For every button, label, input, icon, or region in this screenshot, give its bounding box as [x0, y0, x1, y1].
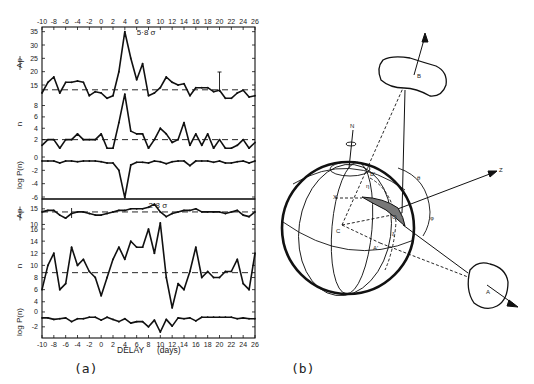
data-point: [242, 214, 244, 216]
data-point: [88, 213, 90, 215]
x-tick-label: 16: [192, 341, 200, 348]
data-point: [130, 164, 132, 166]
data-point: [177, 211, 179, 213]
data-point: [65, 160, 67, 162]
data-point: [159, 211, 161, 213]
data-point: [213, 277, 215, 279]
data-point: [100, 319, 102, 321]
data-point: [142, 161, 144, 163]
data-point: [183, 209, 185, 211]
data-point: [201, 277, 203, 279]
sphere-meridian: [326, 161, 377, 296]
label-x: X: [333, 194, 337, 200]
data-point: [183, 83, 185, 85]
data-point: [88, 95, 90, 97]
y-tick-label: 8: [34, 102, 38, 109]
data-point: [177, 317, 179, 319]
x-tick-label: -2: [86, 341, 92, 348]
data-point: [165, 318, 167, 320]
data-point: [112, 258, 114, 260]
data-point: [130, 240, 132, 242]
data-point: [219, 277, 221, 279]
data-point: [124, 93, 126, 95]
data-point: [230, 316, 232, 318]
x-tick-label: 8: [147, 18, 151, 25]
data-point: [83, 258, 85, 260]
data-point: [142, 246, 144, 248]
data-point: [65, 139, 67, 141]
z-arrow-icon: [488, 171, 497, 177]
data-point: [171, 142, 173, 144]
data-point: [248, 147, 250, 149]
data-point: [124, 197, 126, 199]
y-tick-label: 15: [30, 205, 38, 212]
x-tick-label: 2: [111, 18, 115, 25]
data-point: [65, 81, 67, 83]
data-series: [42, 317, 255, 332]
data-point: [106, 316, 108, 318]
data-point: [183, 160, 185, 162]
data-series: [42, 32, 255, 99]
data-point: [171, 307, 173, 309]
data-point: [165, 277, 167, 279]
arc-xi: [370, 178, 396, 270]
data-point: [207, 133, 209, 135]
data-series: [42, 161, 255, 198]
x-tick-label: 14: [180, 18, 188, 25]
data-point: [112, 211, 114, 213]
data-point: [83, 81, 85, 83]
data-point: [112, 147, 114, 149]
data-point: [201, 160, 203, 162]
data-point: [207, 271, 209, 273]
sphere-latitude: [293, 168, 405, 190]
data-point: [195, 208, 197, 210]
y-tick-label: 0: [34, 308, 38, 315]
data-point: [100, 133, 102, 135]
data-point: [195, 160, 197, 162]
y-tick-label: 20: [30, 68, 38, 75]
data-point: [59, 162, 61, 164]
data-point: [225, 147, 227, 149]
data-point: [148, 228, 150, 230]
sigma-annotation: 5·8 σ: [137, 28, 156, 37]
data-point: [41, 289, 43, 291]
data-point: [154, 139, 156, 141]
data-point: [219, 139, 221, 141]
data-point: [189, 209, 191, 211]
data-point: [106, 213, 108, 215]
data-point: [83, 318, 85, 320]
data-point: [225, 271, 227, 273]
data-point: [242, 317, 244, 319]
data-point: [59, 92, 61, 94]
data-point: [195, 320, 197, 322]
data-point: [118, 209, 120, 211]
data-point: [225, 97, 227, 99]
data-point: [136, 246, 138, 248]
y-tick-label: 2: [34, 136, 38, 143]
data-point: [94, 214, 96, 216]
data-point: [77, 318, 79, 320]
data-point: [207, 211, 209, 213]
data-point: [154, 319, 156, 321]
data-point: [165, 76, 167, 78]
x-tick-label: -4: [74, 341, 80, 348]
data-point: [47, 209, 49, 211]
data-point: [77, 161, 79, 163]
data-point: [236, 161, 238, 163]
data-point: [136, 208, 138, 210]
ray-to-a: [403, 225, 468, 273]
data-point: [207, 160, 209, 162]
data-point: [171, 325, 173, 327]
data-point: [47, 81, 49, 83]
data-point: [77, 133, 79, 135]
data-point: [171, 81, 173, 83]
data-point: [254, 95, 256, 97]
y-tick-label: 14: [30, 238, 38, 245]
data-point: [88, 316, 90, 318]
label-o: O: [392, 214, 397, 220]
data-point: [230, 211, 232, 213]
x-tick-label: -6: [63, 18, 69, 25]
diagram-panel-b: N Z C O X A' B' B A θ φ ξ η: [282, 33, 518, 308]
data-point: [230, 147, 232, 149]
data-point: [142, 63, 144, 65]
